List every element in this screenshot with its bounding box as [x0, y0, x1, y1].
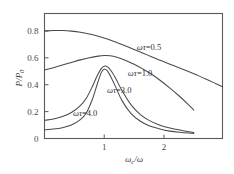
line-chart: 00.20.40.60.812 ωτ=0.5ωτ=1.0ωτ=3.0ωτ=4.0…	[0, 0, 234, 174]
curve-0.5	[45, 31, 223, 87]
curve-label: ωτ=3.0	[107, 85, 131, 95]
y-tick-label: 0.4	[27, 80, 39, 90]
svg-text:ωc/ω: ωc/ω	[125, 154, 143, 165]
y-tick-label: 0.8	[27, 26, 39, 36]
curve-4.0	[45, 69, 194, 133]
x-axis-title: ωc/ω	[125, 154, 143, 165]
svg-text:P/P0: P/P0	[14, 69, 25, 88]
y-axis-title: P/P0	[14, 69, 25, 88]
y-tick-label: 0	[34, 134, 39, 144]
y-tick-label: 0.2	[27, 107, 38, 117]
curve-label: ωτ=4.0	[73, 108, 97, 118]
x-tick-label: 2	[162, 142, 167, 152]
curve-label: ωτ=0.5	[137, 42, 161, 52]
y-tick-label: 0.6	[27, 53, 39, 63]
data-curves	[45, 31, 223, 134]
curve-1.0	[45, 56, 194, 110]
x-tick-label: 1	[102, 142, 107, 152]
chart-screenshot: 00.20.40.60.812 ωτ=0.5ωτ=1.0ωτ=3.0ωτ=4.0…	[0, 0, 234, 174]
curve-3.0	[45, 66, 194, 133]
curve-label: ωτ=1.0	[128, 68, 152, 78]
